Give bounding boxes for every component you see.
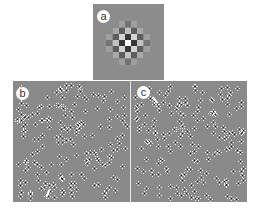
dot bbox=[68, 185, 73, 190]
dot bbox=[32, 160, 37, 165]
dot bbox=[180, 124, 185, 129]
dot bbox=[72, 181, 77, 186]
dot bbox=[115, 114, 120, 119]
dot bbox=[153, 131, 158, 136]
dot bbox=[228, 90, 233, 95]
dot bbox=[95, 156, 100, 161]
checker-cell bbox=[119, 46, 125, 52]
dot bbox=[225, 102, 230, 107]
dot bbox=[206, 157, 211, 162]
dot bbox=[37, 105, 42, 110]
dot bbox=[135, 109, 140, 114]
dot bbox=[213, 112, 218, 117]
dot bbox=[46, 116, 51, 121]
dot bbox=[225, 85, 230, 90]
dot bbox=[151, 124, 156, 129]
checker-cell bbox=[131, 21, 137, 27]
checker-cell bbox=[131, 34, 137, 40]
dot bbox=[161, 132, 166, 137]
dot bbox=[64, 157, 69, 162]
dot bbox=[77, 126, 82, 131]
dot bbox=[107, 125, 112, 130]
dot bbox=[74, 131, 79, 136]
dot bbox=[49, 162, 54, 167]
dot bbox=[189, 195, 194, 200]
dot bbox=[144, 157, 149, 162]
dot bbox=[58, 120, 63, 125]
dot bbox=[173, 140, 178, 145]
dot bbox=[98, 124, 103, 129]
dot bbox=[120, 164, 125, 169]
dot bbox=[174, 185, 179, 190]
dot bbox=[188, 134, 193, 139]
checker-cell bbox=[144, 46, 150, 52]
checker-cell bbox=[144, 34, 150, 40]
checker-cell bbox=[131, 28, 137, 34]
checker-cell bbox=[119, 52, 125, 58]
dot bbox=[92, 183, 97, 188]
dot bbox=[107, 117, 112, 122]
dot bbox=[211, 131, 216, 136]
dot bbox=[231, 169, 236, 174]
dot bbox=[16, 162, 21, 167]
dot bbox=[52, 195, 57, 200]
dot bbox=[235, 86, 240, 91]
dot bbox=[75, 94, 80, 99]
dot bbox=[239, 139, 244, 144]
checker-cell bbox=[125, 40, 131, 46]
dot bbox=[208, 197, 213, 202]
checker-cell bbox=[131, 52, 137, 58]
dot bbox=[188, 151, 193, 156]
dot bbox=[136, 181, 141, 186]
dot bbox=[90, 133, 95, 138]
dot bbox=[108, 107, 113, 112]
dot bbox=[157, 90, 162, 95]
dot bbox=[234, 197, 239, 202]
dot bbox=[163, 93, 168, 98]
dot bbox=[179, 173, 184, 178]
dot bbox=[40, 144, 45, 149]
dot bbox=[182, 187, 187, 192]
checker-cell bbox=[125, 52, 131, 58]
checker-cell bbox=[131, 46, 137, 52]
dot bbox=[181, 113, 186, 118]
panel-b-dot-field: b bbox=[13, 81, 130, 202]
checker-cell bbox=[113, 52, 119, 58]
dot bbox=[70, 115, 75, 120]
dot bbox=[167, 103, 172, 108]
dot bbox=[58, 87, 63, 92]
dot bbox=[60, 136, 65, 141]
dot bbox=[183, 100, 188, 105]
dot bbox=[107, 154, 112, 159]
dot bbox=[21, 129, 26, 134]
dot bbox=[157, 108, 162, 113]
dot bbox=[204, 171, 209, 176]
dot bbox=[156, 172, 161, 177]
dot bbox=[92, 166, 97, 171]
dot bbox=[211, 120, 216, 125]
dot bbox=[56, 103, 61, 108]
dot bbox=[77, 84, 82, 89]
dot bbox=[135, 166, 140, 171]
dot bbox=[175, 104, 180, 109]
dot bbox=[195, 179, 200, 184]
checker-cell bbox=[113, 46, 119, 52]
dot bbox=[102, 191, 107, 196]
panel-c-dot-field: c bbox=[131, 81, 247, 202]
dot bbox=[189, 183, 194, 188]
checker-cell bbox=[137, 46, 143, 52]
dot bbox=[120, 133, 125, 138]
dot bbox=[44, 170, 49, 175]
panel-a-autocorrelation: a bbox=[93, 4, 164, 80]
panel-label-b: b bbox=[16, 87, 29, 100]
dot bbox=[150, 172, 155, 177]
dot bbox=[79, 172, 84, 177]
dot bbox=[122, 95, 127, 100]
dot bbox=[232, 132, 237, 137]
dot bbox=[179, 193, 184, 198]
checker-cell bbox=[137, 52, 143, 58]
dot bbox=[82, 134, 87, 139]
dot bbox=[35, 172, 40, 177]
dot bbox=[205, 150, 210, 155]
checker-cell bbox=[131, 40, 137, 46]
